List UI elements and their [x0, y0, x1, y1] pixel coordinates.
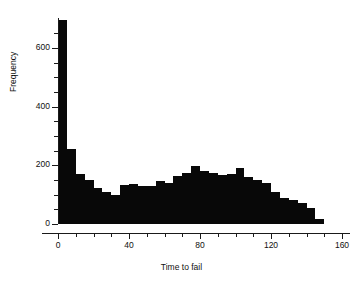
histogram-bar: [58, 20, 67, 224]
histogram-bar: [120, 185, 129, 224]
histogram-bar: [280, 198, 289, 224]
y-tick-minor: [54, 195, 58, 196]
histogram-bar: [271, 192, 280, 224]
histogram-bar: [307, 208, 316, 224]
y-tick-minor: [54, 136, 58, 137]
x-tick-label: 120: [264, 241, 278, 250]
histogram-bar: [182, 173, 191, 224]
histogram-bar: [129, 184, 138, 224]
histogram-bar: [227, 174, 236, 224]
histogram-bar: [218, 175, 227, 224]
histogram-bar: [236, 168, 245, 224]
x-axis-line: [42, 233, 350, 234]
x-tick-minor: [218, 233, 219, 237]
x-tick-label: 80: [195, 241, 204, 250]
x-tick-minor: [147, 233, 148, 237]
y-tick-major: [52, 107, 58, 108]
histogram-bar: [289, 200, 298, 224]
histogram-bar: [262, 183, 271, 224]
y-tick-minor: [54, 33, 58, 34]
histogram-bar: [209, 173, 218, 224]
histogram-bar: [253, 180, 262, 224]
y-tick-label: 400: [8, 102, 50, 111]
histogram-bar: [94, 188, 103, 224]
x-tick-minor: [289, 233, 290, 237]
x-tick-label: 160: [335, 241, 349, 250]
x-tick-minor: [76, 233, 77, 237]
histogram-bar: [85, 180, 94, 224]
x-tick-minor: [253, 233, 254, 237]
histogram-bar: [173, 176, 182, 224]
y-tick-minor: [54, 151, 58, 152]
y-tick-label: 600: [8, 43, 50, 52]
histogram-bar: [147, 186, 156, 224]
x-tick-minor: [111, 233, 112, 237]
histogram-bar: [200, 171, 209, 224]
histogram-bar: [298, 203, 307, 224]
histogram-bar: [165, 183, 174, 224]
x-tick-major: [129, 233, 130, 239]
x-tick-minor: [165, 233, 166, 237]
y-tick-minor: [54, 209, 58, 210]
histogram-bar: [191, 166, 200, 224]
y-tick-major: [52, 224, 58, 225]
y-tick-minor: [54, 77, 58, 78]
histogram-bar: [102, 192, 111, 224]
y-axis-line: [58, 18, 59, 224]
x-tick-minor: [236, 233, 237, 237]
y-tick-major: [52, 48, 58, 49]
x-tick-major: [342, 233, 343, 239]
x-tick-minor: [307, 233, 308, 237]
histogram-bar: [244, 177, 253, 224]
x-tick-major: [200, 233, 201, 239]
y-tick-minor: [54, 180, 58, 181]
histogram-bar: [111, 195, 120, 224]
x-tick-minor: [94, 233, 95, 237]
x-tick-label: 40: [124, 241, 133, 250]
histogram-bars: [58, 20, 342, 224]
y-tick-major: [52, 165, 58, 166]
x-tick-major: [58, 233, 59, 239]
histogram-bar: [156, 181, 165, 224]
plot-area: [58, 20, 342, 224]
y-tick-minor: [54, 92, 58, 93]
histogram-bar: [315, 219, 324, 224]
x-tick-minor: [182, 233, 183, 237]
x-tick-major: [271, 233, 272, 239]
x-axis-title: Time to fail: [0, 262, 363, 272]
y-axis-title: Frequency: [8, 52, 18, 92]
histogram-figure: 020040060004080120160 Frequency Time to …: [0, 0, 363, 284]
y-tick-minor: [54, 121, 58, 122]
histogram-bar: [67, 149, 76, 224]
histogram-bar: [138, 186, 147, 224]
y-tick-minor: [54, 63, 58, 64]
y-tick-label: 200: [8, 160, 50, 169]
histogram-bar: [76, 174, 85, 224]
y-tick-label: 0: [8, 219, 50, 228]
x-tick-label: 0: [56, 241, 61, 250]
x-tick-minor: [324, 233, 325, 237]
